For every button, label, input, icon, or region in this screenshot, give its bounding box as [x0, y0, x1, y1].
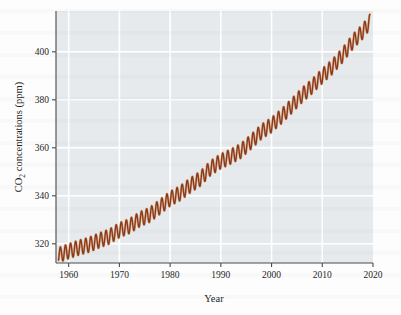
x-axis-tick-labels: 1960197019801990200020102020 — [59, 270, 383, 280]
svg-text:CO2 concentrations (ppm): CO2 concentrations (ppm) — [13, 81, 27, 192]
y-axis-tick-labels: 320340360380400 — [35, 47, 50, 249]
x-tick-label: 2000 — [262, 270, 281, 280]
y-tick-label: 380 — [35, 95, 50, 105]
y-axis-title: CO2 concentrations (ppm) — [13, 81, 27, 192]
y-axis-title-rest: concentrations (ppm) — [13, 81, 25, 174]
x-tick-label: 1990 — [211, 270, 230, 280]
x-tick-label: 1960 — [59, 270, 78, 280]
y-tick-label: 400 — [35, 47, 50, 57]
x-axis-title: Year — [204, 293, 224, 304]
x-tick-label: 2020 — [364, 270, 383, 280]
y-tick-label: 360 — [35, 143, 50, 153]
x-tick-label: 2010 — [313, 270, 332, 280]
figure-container: 320340360380400 196019701980199020002010… — [0, 0, 401, 315]
y-axis-title-main: CO — [13, 177, 24, 192]
y-tick-label: 340 — [35, 191, 50, 201]
plot-area-background — [56, 11, 373, 263]
x-tick-label: 1980 — [161, 270, 180, 280]
y-tick-label: 320 — [35, 239, 50, 249]
x-tick-label: 1970 — [110, 270, 129, 280]
co2-concentration-line-chart: 320340360380400 196019701980199020002010… — [0, 0, 401, 315]
